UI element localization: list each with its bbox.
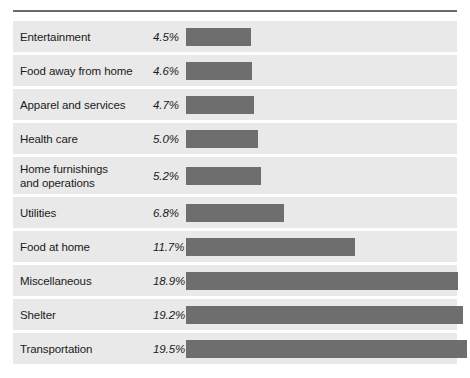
- category-label-line1: Entertainment: [20, 31, 90, 43]
- category-label-line1: Transportation: [20, 343, 92, 355]
- value-bar: [186, 238, 355, 256]
- category-label-line1: Food away from home: [20, 65, 133, 77]
- category-label-line1: Apparel and services: [20, 99, 125, 111]
- table-row: Miscellaneous18.9%: [13, 265, 457, 299]
- category-label: Miscellaneous: [13, 274, 153, 288]
- value-bar: [186, 306, 463, 324]
- category-label-line2: and operations: [20, 176, 153, 190]
- expenditure-bar-chart: Entertainment4.5%Food away from home4.6%…: [0, 0, 470, 378]
- bar-track: [175, 333, 467, 364]
- bar-track: [175, 231, 457, 262]
- value-bar: [186, 167, 261, 185]
- category-label: Transportation: [13, 342, 153, 356]
- bar-track: [175, 55, 457, 86]
- table-row: Food away from home4.6%: [13, 55, 457, 89]
- value-label: 18.9%: [153, 275, 175, 287]
- table-row: Utilities6.8%: [13, 197, 457, 231]
- bar-track: [175, 265, 458, 296]
- table-row: Entertainment4.5%: [13, 21, 457, 55]
- bar-track: [175, 21, 457, 52]
- chart-rows-container: Entertainment4.5%Food away from home4.6%…: [13, 21, 457, 364]
- value-label: 4.6%: [153, 65, 175, 77]
- category-label: Food at home: [13, 240, 153, 254]
- category-label-line1: Home furnishings: [20, 163, 108, 175]
- value-bar: [186, 62, 252, 80]
- value-label: 11.7%: [153, 241, 175, 253]
- value-bar: [186, 28, 251, 46]
- category-label: Apparel and services: [13, 98, 153, 112]
- value-bar: [186, 130, 258, 148]
- category-label: Utilities: [13, 206, 153, 220]
- category-label-line1: Food at home: [20, 241, 90, 253]
- value-label: 4.5%: [153, 31, 175, 43]
- value-label: 6.8%: [153, 207, 175, 219]
- category-label: Health care: [13, 132, 153, 146]
- bar-track: [175, 123, 457, 154]
- bar-track: [175, 197, 457, 228]
- value-label: 4.7%: [153, 99, 175, 111]
- category-label: Home furnishingsand operations: [13, 162, 153, 190]
- value-label: 19.2%: [153, 309, 175, 321]
- bar-track: [175, 89, 457, 120]
- value-label: 5.2%: [153, 170, 175, 182]
- value-bar: [186, 340, 467, 358]
- category-label: Entertainment: [13, 30, 153, 44]
- top-rule-divider: [13, 10, 457, 12]
- bar-track: [175, 157, 457, 194]
- category-label-line1: Health care: [20, 133, 78, 145]
- table-row: Food at home11.7%: [13, 231, 457, 265]
- bar-track: [175, 299, 463, 330]
- category-label-line1: Miscellaneous: [20, 275, 92, 287]
- value-bar: [186, 204, 284, 222]
- category-label-line1: Utilities: [20, 207, 56, 219]
- table-row: Apparel and services4.7%: [13, 89, 457, 123]
- value-bar: [186, 272, 458, 290]
- category-label: Food away from home: [13, 64, 153, 78]
- category-label-line1: Shelter: [20, 309, 56, 321]
- value-label: 19.5%: [153, 343, 175, 355]
- table-row: Shelter19.2%: [13, 299, 457, 333]
- table-row: Home furnishingsand operations5.2%: [13, 157, 457, 197]
- table-row: Transportation19.5%: [13, 333, 457, 364]
- value-label: 5.0%: [153, 133, 175, 145]
- category-label: Shelter: [13, 308, 153, 322]
- table-row: Health care5.0%: [13, 123, 457, 157]
- value-bar: [186, 96, 254, 114]
